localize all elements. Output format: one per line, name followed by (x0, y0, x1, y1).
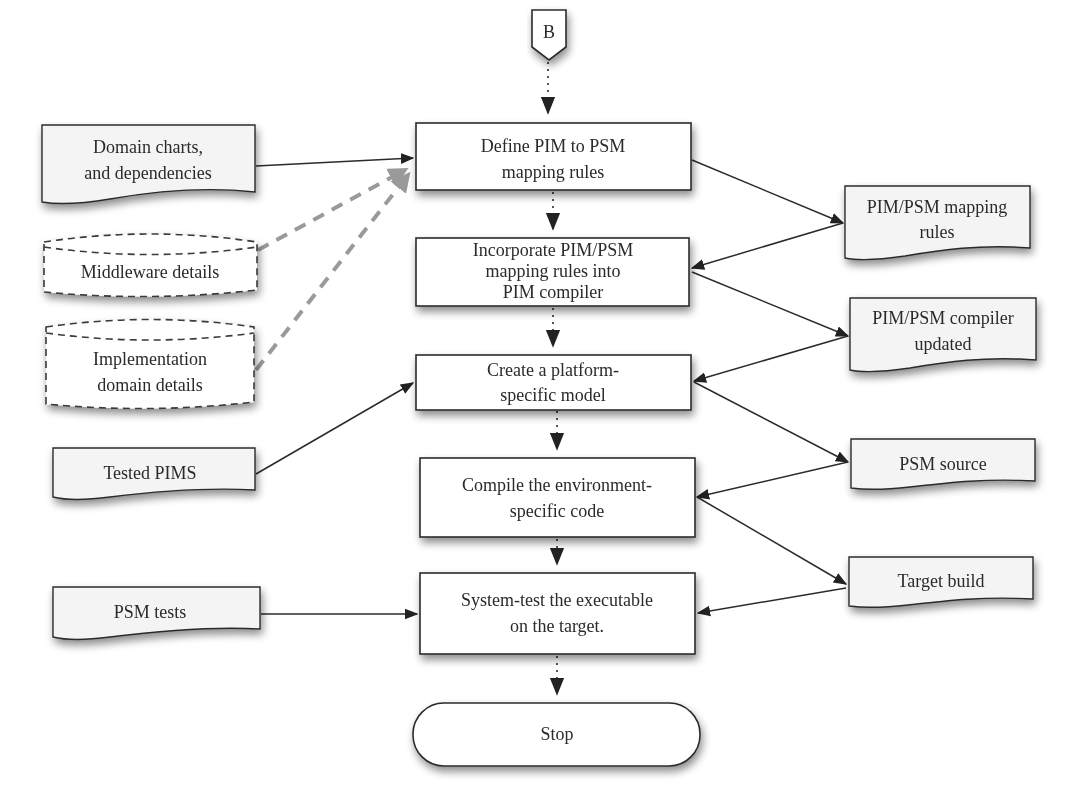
edge-mapping-rules-to-incorporate (692, 223, 843, 268)
artifact-compiler-updated-line1: PIM/PSM compiler (872, 308, 1014, 328)
input-domain-charts[interactable]: Domain charts, and dependencies (42, 125, 255, 204)
step-incorporate[interactable]: Incorporate PIM/PSM mapping rules into P… (416, 238, 689, 306)
input-domain-charts-line2: and dependencies (84, 163, 211, 183)
input-implementation-domain[interactable]: Implementation domain details (46, 320, 254, 409)
artifact-mapping-rules[interactable]: PIM/PSM mapping rules (845, 186, 1030, 260)
artifact-target-build[interactable]: Target build (849, 557, 1033, 607)
step-create[interactable]: Create a platform- specific model (416, 355, 691, 410)
edge-impl-domain-to-define (256, 175, 408, 370)
input-middleware-details[interactable]: Middleware details (44, 234, 257, 297)
edge-incorporate-to-compiler-updated (692, 272, 848, 336)
artifact-mapping-rules-line1: PIM/PSM mapping (867, 197, 1008, 217)
input-psm-tests-label: PSM tests (114, 602, 187, 622)
step-incorporate-line3: PIM compiler (503, 282, 604, 302)
artifact-psm-source-label: PSM source (899, 454, 987, 474)
step-compile[interactable]: Compile the environment- specific code (420, 458, 695, 537)
step-systemtest[interactable]: System-test the executable on the target… (420, 573, 695, 654)
edge-compile-to-target-build (697, 497, 846, 584)
flowchart-diagram: B Define PIM to PSM mapping rules Incorp… (0, 0, 1079, 807)
step-systemtest-line2: on the target. (510, 616, 604, 636)
step-incorporate-line1: Incorporate PIM/PSM (473, 240, 634, 260)
input-implementation-line1: Implementation (93, 349, 207, 369)
input-psm-tests[interactable]: PSM tests (53, 587, 260, 640)
artifact-compiler-updated-line2: updated (915, 334, 972, 354)
input-implementation-line2: domain details (97, 375, 202, 395)
edge-tested-pims-to-create (256, 383, 413, 474)
step-create-line1: Create a platform- (487, 360, 619, 380)
input-tested-pims[interactable]: Tested PIMS (53, 448, 255, 500)
step-define-line2: mapping rules (502, 162, 604, 182)
edge-psm-source-to-compile (697, 462, 848, 497)
step-systemtest-line1: System-test the executable (461, 590, 653, 610)
step-incorporate-line2: mapping rules into (486, 261, 621, 281)
edge-target-build-to-systemtest (698, 588, 846, 613)
edge-middleware-to-define (258, 170, 405, 250)
edge-define-to-mapping-rules (692, 160, 843, 223)
terminator-stop[interactable]: Stop (413, 703, 700, 766)
terminator-stop-label: Stop (540, 724, 573, 744)
step-compile-line2: specific code (510, 501, 604, 521)
input-domain-charts-line1: Domain charts, (93, 137, 203, 157)
artifact-psm-source[interactable]: PSM source (851, 439, 1035, 489)
step-compile-line1: Compile the environment- (462, 475, 652, 495)
step-define[interactable]: Define PIM to PSM mapping rules (416, 123, 691, 190)
step-create-line2: specific model (500, 385, 605, 405)
artifact-compiler-updated[interactable]: PIM/PSM compiler updated (850, 298, 1036, 372)
connector-b[interactable]: B (532, 10, 566, 60)
input-tested-pims-label: Tested PIMS (103, 463, 196, 483)
edge-compiler-updated-to-create (694, 336, 848, 381)
artifact-mapping-rules-line2: rules (920, 222, 955, 242)
artifact-target-build-label: Target build (898, 571, 985, 591)
input-middleware-label: Middleware details (81, 262, 219, 282)
step-define-line1: Define PIM to PSM (481, 136, 626, 156)
edge-domain-charts-to-define (256, 158, 413, 166)
connector-b-label: B (543, 22, 555, 42)
edge-create-to-psm-source (694, 382, 848, 462)
